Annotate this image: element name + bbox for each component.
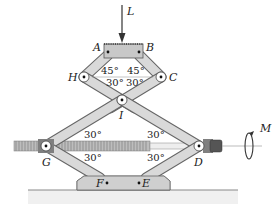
angle-G-lower: 30° [84, 152, 102, 163]
angle-mid-right: 30° [126, 77, 144, 88]
label-M: M [259, 122, 272, 135]
label-A: A [92, 41, 101, 54]
label-F: F [95, 177, 104, 190]
angle-mid-left: 30° [106, 77, 124, 88]
load-arrow [119, 5, 126, 43]
label-G: G [42, 156, 51, 169]
label-I: I [118, 109, 124, 122]
pin-E [138, 182, 141, 185]
label-C: C [169, 71, 178, 84]
label-L: L [126, 5, 134, 18]
angle-top-right: 45° [127, 65, 145, 76]
moment-arrow [245, 131, 254, 159]
angle-D-upper: 30° [147, 129, 165, 140]
label-E: E [141, 177, 150, 190]
load-block [104, 44, 143, 58]
label-H: H [67, 71, 78, 84]
label-B: B [145, 41, 154, 54]
pin-B [138, 51, 141, 54]
angle-G-upper: 30° [84, 129, 102, 140]
angle-D-lower: 30° [147, 152, 165, 163]
ground [28, 190, 238, 204]
scissor-jack-diagram: L A B H C I G D F E M 45° 45° 30° 30° 30… [0, 0, 278, 206]
angle-top-left: 45° [101, 65, 119, 76]
pin-A [107, 51, 110, 54]
label-D: D [193, 156, 203, 169]
pin-F [106, 182, 109, 185]
crank-handle [210, 140, 222, 152]
